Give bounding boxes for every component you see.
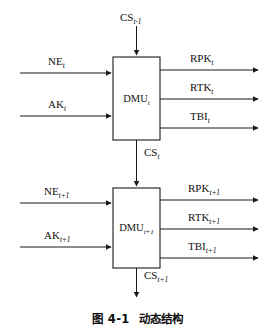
caption-number: 图 4-1 [92,312,129,326]
label-input-ne-t1: NEt+1 [44,186,69,197]
caption-title: 动态结构 [139,312,184,326]
figure-caption: 图 4-1动态结构 [0,310,276,326]
label-state-top: CSt-1 [120,12,142,23]
label-output-rtk-t: RTKt [190,82,213,93]
label-state-bottom: CSt+1 [144,270,168,281]
label-output-rpk-t1: RPKt+1 [188,183,220,194]
dmu-t-label: DMUt [113,94,160,105]
dmu-t1-label: DMUt+1 [108,223,165,234]
label-output-tbi-t1: TBIt+1 [188,241,216,252]
diagram-graphics [0,0,276,336]
label-input-ak-t: AKt [48,99,66,110]
label-output-rpk-t: RPKt [190,53,213,64]
figure-canvas: CSt-1 CSt CSt+1 NEt AKt RPKt RTKt TBIt N… [0,0,276,336]
label-input-ak-t1: AKt+1 [44,230,71,241]
label-state-middle: CSt [144,147,159,158]
label-output-tbi-t: TBIt [190,111,210,122]
label-input-ne-t: NEt [48,56,65,67]
label-output-rtk-t1: RTKt+1 [188,212,220,223]
